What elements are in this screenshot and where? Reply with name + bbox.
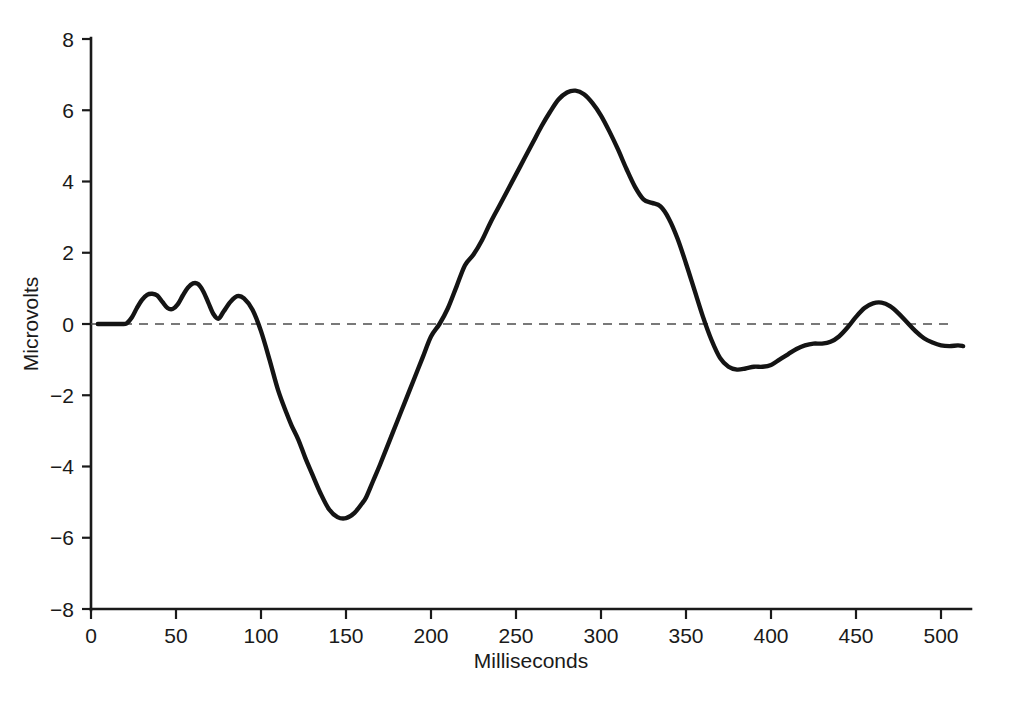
x-tick-label: 400 bbox=[753, 624, 788, 647]
x-tick-label: 0 bbox=[85, 624, 97, 647]
x-tick-marks bbox=[91, 609, 941, 619]
x-tick-labels: 050100150200250300350400450500 bbox=[85, 624, 958, 647]
x-tick-label: 450 bbox=[838, 624, 873, 647]
x-tick-label: 150 bbox=[328, 624, 363, 647]
x-tick-label: 100 bbox=[243, 624, 278, 647]
y-tick-label: −4 bbox=[50, 455, 74, 478]
x-tick-label: 300 bbox=[583, 624, 618, 647]
y-tick-label: 2 bbox=[62, 241, 74, 264]
y-axis-title: Microvolts bbox=[19, 277, 42, 372]
y-tick-label: −6 bbox=[50, 526, 74, 549]
x-axis-title: Milliseconds bbox=[474, 649, 588, 672]
x-tick-label: 500 bbox=[923, 624, 958, 647]
y-tick-label: 6 bbox=[62, 99, 74, 122]
x-tick-label: 250 bbox=[498, 624, 533, 647]
y-tick-label: −8 bbox=[50, 598, 74, 621]
x-tick-label: 200 bbox=[413, 624, 448, 647]
y-tick-marks bbox=[82, 39, 91, 609]
y-tick-label: 0 bbox=[62, 313, 74, 336]
erp-waveform-line bbox=[98, 91, 963, 519]
chart-canvas: 86420−2−4−6−8 Microvolts 050100150200250… bbox=[0, 0, 1011, 702]
y-tick-label: 8 bbox=[62, 28, 74, 51]
y-tick-label: −2 bbox=[50, 384, 74, 407]
x-tick-label: 350 bbox=[668, 624, 703, 647]
x-tick-label: 50 bbox=[164, 624, 187, 647]
y-axis-group: 86420−2−4−6−8 Microvolts bbox=[19, 28, 91, 621]
x-axis-group: 050100150200250300350400450500 Milliseco… bbox=[85, 609, 971, 672]
y-tick-labels: 86420−2−4−6−8 bbox=[50, 28, 74, 621]
erp-waveform-figure: 86420−2−4−6−8 Microvolts 050100150200250… bbox=[0, 0, 1011, 702]
y-tick-label: 4 bbox=[62, 170, 74, 193]
